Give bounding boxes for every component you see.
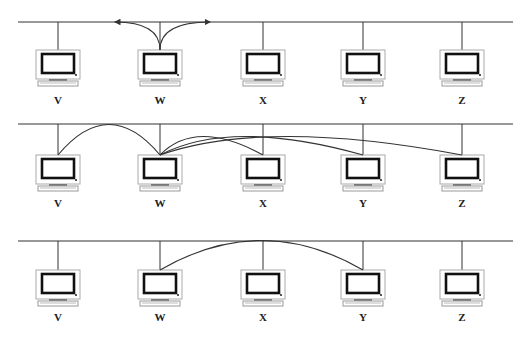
station-label: W: [155, 94, 166, 106]
station-v: V: [36, 241, 80, 323]
computer-monitor-icon: [341, 50, 385, 86]
computer-monitor-icon: [440, 50, 484, 86]
computer-monitor-icon: [138, 50, 182, 86]
station-z: Z: [440, 124, 484, 209]
computer-monitor-icon: [440, 155, 484, 191]
station-label: V: [54, 311, 62, 323]
station-label: W: [155, 311, 166, 323]
computer-monitor-icon: [341, 155, 385, 191]
station-z: Z: [440, 241, 484, 323]
signal-curve: [58, 125, 160, 156]
computer-monitor-icon: [36, 155, 80, 191]
station-label: Z: [458, 94, 465, 106]
computer-monitor-icon: [138, 270, 182, 306]
computer-monitor-icon: [241, 50, 285, 86]
station-w: W: [138, 124, 182, 209]
station-label: Y: [359, 197, 367, 209]
station-w: W: [138, 241, 182, 323]
station-x: X: [241, 241, 285, 323]
signal-curve: [160, 137, 462, 156]
station-y: Y: [341, 241, 385, 323]
computer-monitor-icon: [440, 270, 484, 306]
station-v: V: [36, 124, 80, 209]
station-label: Z: [458, 197, 465, 209]
station-y: Y: [341, 124, 385, 209]
network-diagram: VWXYZVWXYZVWXYZ: [0, 0, 529, 339]
signal-curve: [115, 22, 160, 50]
station-y: Y: [341, 22, 385, 106]
computer-monitor-icon: [36, 50, 80, 86]
computer-monitor-icon: [241, 270, 285, 306]
station-v: V: [36, 22, 80, 106]
station-label: Y: [359, 94, 367, 106]
computer-monitor-icon: [138, 155, 182, 191]
station-x: X: [241, 22, 285, 106]
row-3: VWXYZ: [18, 241, 513, 324]
row-2: VWXYZ: [18, 124, 513, 209]
station-label: X: [259, 311, 267, 323]
station-z: Z: [440, 22, 484, 106]
station-label: Z: [458, 311, 465, 323]
computer-monitor-icon: [36, 270, 80, 306]
signal-curve: [160, 241, 363, 271]
row-1: VWXYZ: [18, 22, 513, 106]
station-label: W: [155, 197, 166, 209]
station-label: V: [54, 197, 62, 209]
station-w: W: [138, 22, 182, 106]
computer-monitor-icon: [241, 155, 285, 191]
station-label: X: [259, 94, 267, 106]
station-label: V: [54, 94, 62, 106]
station-label: Y: [359, 311, 367, 323]
computer-monitor-icon: [341, 270, 385, 306]
station-label: X: [259, 197, 267, 209]
signal-curve: [160, 22, 210, 50]
